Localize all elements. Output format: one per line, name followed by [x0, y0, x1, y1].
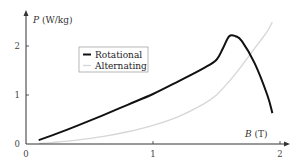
- series-alternating: [39, 22, 273, 144]
- y-axis-label: P (W/kg): [32, 15, 72, 25]
- x-tick-label-2: 2: [277, 149, 282, 159]
- y-axis-arrow-icon: [24, 10, 29, 16]
- legend-label-rotational: Rotational: [95, 50, 142, 60]
- chart: 2 1 0 0 1 2 P (W/kg) B (T) Rotational Al…: [0, 0, 299, 165]
- plot-series: [39, 22, 273, 144]
- y-tick-label-1: 1: [15, 90, 20, 100]
- legend: Rotational Alternating: [79, 47, 148, 72]
- legend-label-alternating: Alternating: [94, 61, 147, 71]
- x-tick-label-1: 1: [150, 149, 155, 159]
- x-axis-arrow-icon: [284, 142, 290, 147]
- x-axis-label: B (T): [244, 129, 268, 139]
- y-tick-label-0: 0: [15, 139, 20, 149]
- x-tick-label-0: 0: [23, 149, 28, 159]
- y-tick-label-2: 2: [15, 41, 20, 51]
